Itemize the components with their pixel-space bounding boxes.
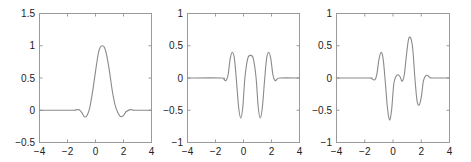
x-tick-label: −2: [359, 146, 371, 157]
x-tick-label: 2: [269, 146, 275, 157]
y-tick-label: 0.5: [21, 73, 35, 84]
x-tick-label: −4: [331, 146, 343, 157]
x-tick-label: 2: [121, 146, 127, 157]
x-tick-label: 0: [241, 146, 247, 157]
data-line: [337, 37, 450, 120]
subplot-3: −4−2024−1−0.500.51: [312, 8, 452, 157]
y-tick-label: −0.5: [312, 105, 332, 116]
x-tick-label: −4: [34, 146, 46, 157]
figure: −4−2024−0.500.511.5 −4−2024−1−0.500.51 −…: [0, 0, 471, 162]
y-tick-label: 0: [177, 73, 183, 84]
x-tick-label: 0: [390, 146, 396, 157]
x-tick-label: 4: [447, 146, 453, 157]
y-tick-label: −1: [172, 137, 184, 148]
y-tick-label: −0.5: [15, 137, 35, 148]
x-tick-label: −2: [62, 146, 74, 157]
subplot-1: −4−2024−0.500.511.5: [15, 8, 154, 157]
data-line: [40, 46, 152, 117]
axes-box: [40, 14, 152, 143]
y-tick-label: 1: [326, 8, 332, 19]
y-tick-label: 1.5: [21, 8, 35, 19]
x-tick-label: 2: [418, 146, 424, 157]
y-tick-label: 1: [177, 8, 183, 19]
y-tick-label: 0.5: [169, 40, 183, 51]
x-tick-label: −2: [210, 146, 222, 157]
x-tick-label: 0: [93, 146, 99, 157]
y-tick-label: −1: [321, 137, 333, 148]
y-tick-label: −0.5: [163, 105, 183, 116]
x-tick-label: 4: [149, 146, 155, 157]
y-tick-label: 1: [29, 40, 35, 51]
y-tick-label: 0: [29, 105, 35, 116]
x-tick-label: 4: [297, 146, 303, 157]
x-tick-label: −4: [182, 146, 194, 157]
y-tick-label: 0.5: [318, 40, 332, 51]
subplot-2: −4−2024−1−0.500.51: [163, 8, 302, 157]
y-tick-label: 0: [326, 73, 332, 84]
data-line: [188, 52, 300, 118]
